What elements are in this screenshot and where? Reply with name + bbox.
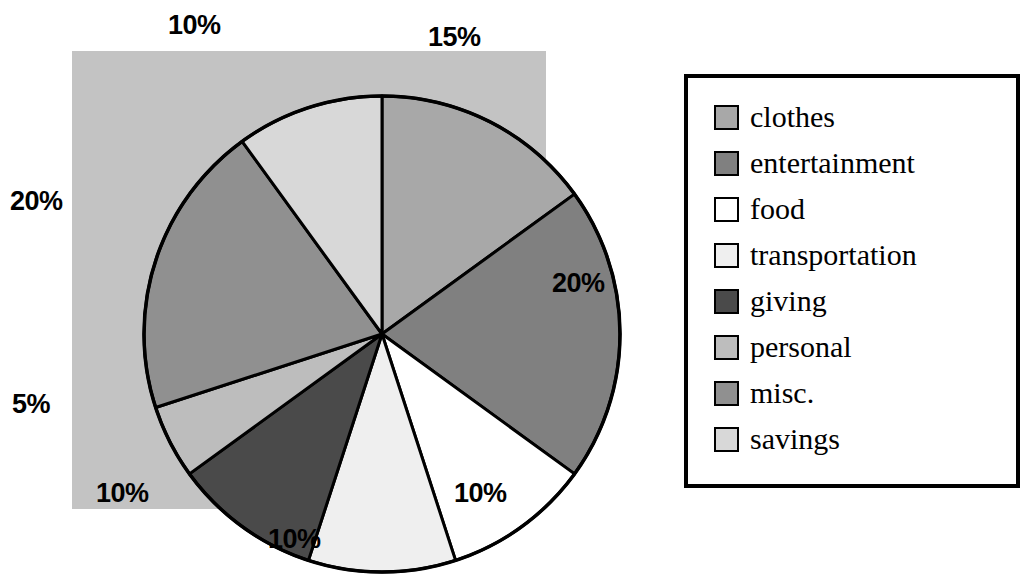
legend-item-label: food — [750, 194, 805, 224]
legend-swatch-icon — [714, 105, 739, 130]
plot-area — [72, 51, 546, 509]
legend-swatch-icon — [714, 335, 739, 360]
legend-item: food — [714, 186, 1006, 232]
legend-item: personal — [714, 324, 1006, 370]
legend-item: misc. — [714, 370, 1006, 416]
legend-item: giving — [714, 278, 1006, 324]
legend-item-label: entertainment — [750, 148, 915, 178]
legend-items: clothesentertainmentfoodtransportationgi… — [714, 94, 1006, 462]
pie-svg — [139, 91, 625, 577]
legend-swatch-icon — [714, 151, 739, 176]
legend-item: clothes — [714, 94, 1006, 140]
legend-swatch-icon — [714, 381, 739, 406]
legend-item-label: clothes — [750, 102, 835, 132]
pie-percentage-label-transportation: 10% — [268, 524, 321, 555]
pie-percentage-label-clothes: 15% — [428, 22, 481, 53]
legend-item: entertainment — [714, 140, 1006, 186]
pie-percentage-label-savings: 10% — [168, 10, 221, 41]
legend-item-label: savings — [750, 424, 840, 454]
legend-item-label: transportation — [750, 240, 917, 270]
legend-item: transportation — [714, 232, 1006, 278]
pie-percentage-label-misc: 20% — [10, 186, 63, 217]
pie-chart: 10%15%20%10%10%10%5%20% — [0, 0, 620, 556]
legend-swatch-icon — [714, 243, 739, 268]
pie-percentage-label-giving: 10% — [96, 478, 149, 509]
legend-item: savings — [714, 416, 1006, 462]
legend-swatch-icon — [714, 427, 739, 452]
pie-percentage-label-entertainment: 20% — [552, 268, 605, 299]
legend-item-label: personal — [750, 332, 852, 362]
legend-item-label: giving — [750, 286, 827, 316]
pie-percentage-label-food: 10% — [454, 478, 507, 509]
legend: clothesentertainmentfoodtransportationgi… — [684, 74, 1020, 488]
legend-swatch-icon — [714, 289, 739, 314]
legend-swatch-icon — [714, 197, 739, 222]
pie-percentage-label-personal: 5% — [12, 389, 50, 420]
legend-item-label: misc. — [750, 378, 814, 408]
